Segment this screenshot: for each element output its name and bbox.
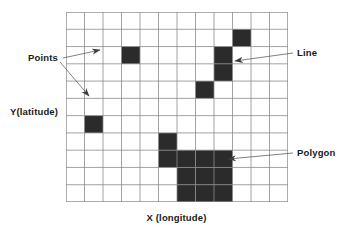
raster-cell-filled	[85, 116, 104, 133]
raster-grid	[66, 12, 288, 202]
annotation-label-polygon: Polygon	[297, 148, 336, 158]
raster-cell-filled	[177, 185, 196, 202]
raster-cell-filled	[159, 150, 178, 167]
raster-cell-filled	[177, 150, 196, 167]
raster-cell-filled	[214, 64, 233, 81]
raster-cell-filled	[214, 167, 233, 184]
raster-cell-filled	[196, 167, 215, 184]
x-axis-label: X (longitude)	[0, 213, 353, 223]
raster-cell-filled	[122, 47, 141, 64]
raster-cell-filled	[196, 185, 215, 202]
annotation-label-line: Line	[297, 48, 317, 58]
y-axis-label: Y(latitude)	[10, 107, 58, 117]
raster-cell-filled	[214, 47, 233, 64]
raster-cell-filled	[233, 29, 252, 46]
raster-cell-filled	[159, 133, 178, 150]
grid-line-layer	[66, 12, 288, 202]
raster-cell-filled	[214, 185, 233, 202]
raster-cell-filled	[196, 81, 215, 98]
spatial-data-figure: Points Y(latitude) Line Polygon X (longi…	[0, 0, 353, 231]
annotation-label-points: Points	[28, 53, 58, 63]
grid-canvas	[66, 12, 288, 202]
raster-cell-filled	[177, 167, 196, 184]
raster-cell-filled	[214, 150, 233, 167]
raster-cell-filled	[196, 150, 215, 167]
